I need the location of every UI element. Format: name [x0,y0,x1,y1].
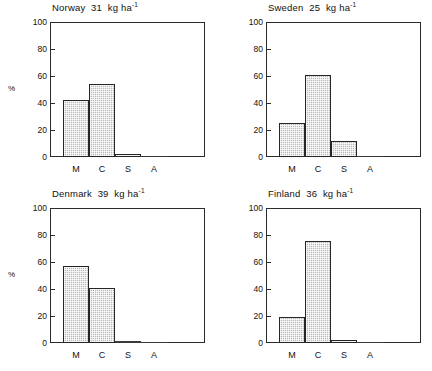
x-tick-label-denmark-s: S [118,350,138,360]
y-tick-label-finland-100: 100 [239,203,263,213]
x-tick-label-sweden-s: S [334,164,354,174]
panel-country-finland: Finland [268,188,301,199]
y-tick-label-sweden-100: 100 [239,17,263,27]
panel-title-denmark: Denmark 39 kg ha-1 [52,188,145,199]
y-axis-norway: 020406080100 [20,22,47,157]
panel-units-norway: kg ha [108,2,132,13]
y-tick-mark-finland-40 [267,289,271,290]
panel-norway: Norway 31 kg ha-1%020406080100MCSA [0,0,216,185]
plot-area-sweden [266,22,421,157]
panel-rate-norway: 31 [91,2,102,13]
panel-units-exponent-finland: -1 [347,187,353,194]
y-tick-label-sweden-20: 20 [239,125,263,135]
y-tick-label-norway-80: 80 [23,44,47,54]
panel-country-denmark: Denmark [52,188,92,199]
x-tick-label-sweden-c: C [308,164,328,174]
figure-panel-grid: Norway 31 kg ha-1%020406080100MCSASweden… [0,0,432,371]
panel-sweden: Sweden 25 kg ha-1020406080100MCSA [216,0,432,185]
x-tick-label-finland-m: M [282,350,302,360]
panel-title-finland: Finland 36 kg ha-1 [268,188,353,199]
y-tick-label-denmark-40: 40 [23,284,47,294]
y-tick-label-norway-100: 100 [23,17,47,27]
x-tick-label-norway-c: C [92,164,112,174]
y-tick-label-sweden-0: 0 [239,152,263,162]
y-axis-denmark: 020406080100 [20,208,47,343]
y-tick-label-denmark-60: 60 [23,257,47,267]
panel-finland: Finland 36 kg ha-1020406080100MCSA [216,186,432,371]
y-tick-label-sweden-80: 80 [239,44,263,54]
y-axis-label-denmark: % [8,270,15,279]
plot-area-denmark [50,208,205,343]
y-tick-label-sweden-40: 40 [239,98,263,108]
panel-rate-sweden: 25 [309,2,320,13]
panel-rate-denmark: 39 [98,188,109,199]
y-tick-mark-sweden-20 [267,130,271,131]
y-tick-label-finland-80: 80 [239,230,263,240]
x-tick-label-norway-m: M [66,164,86,174]
y-tick-mark-denmark-40 [51,289,55,290]
y-tick-mark-finland-80 [267,235,271,236]
y-axis-label-norway: % [8,84,15,93]
x-tick-label-denmark-m: M [66,350,86,360]
panel-units-exponent-denmark: -1 [139,187,145,194]
y-tick-mark-finland-60 [267,262,271,263]
y-tick-label-denmark-80: 80 [23,230,47,240]
panel-country-sweden: Sweden [268,2,304,13]
x-tick-label-finland-c: C [308,350,328,360]
y-tick-label-norway-60: 60 [23,71,47,81]
y-tick-label-denmark-0: 0 [23,338,47,348]
y-tick-label-sweden-60: 60 [239,71,263,81]
y-tick-mark-denmark-80 [51,235,55,236]
y-tick-label-finland-20: 20 [239,311,263,321]
panel-title-norway: Norway 31 kg ha-1 [52,2,138,13]
y-tick-label-finland-0: 0 [239,338,263,348]
plot-area-norway [50,22,205,157]
y-axis-sweden: 020406080100 [236,22,263,157]
panel-units-exponent-sweden: -1 [350,1,356,8]
y-tick-label-denmark-20: 20 [23,311,47,321]
y-tick-mark-finland-20 [267,316,271,317]
y-tick-mark-norway-60 [51,76,55,77]
panel-units-denmark: kg ha [114,188,138,199]
y-tick-label-finland-40: 40 [239,284,263,294]
y-tick-mark-denmark-60 [51,262,55,263]
panel-units-exponent-norway: -1 [132,1,138,8]
x-tick-label-norway-s: S [118,164,138,174]
y-tick-label-denmark-100: 100 [23,203,47,213]
y-tick-label-norway-40: 40 [23,98,47,108]
x-tick-label-denmark-c: C [92,350,112,360]
y-axis-finland: 020406080100 [236,208,263,343]
x-tick-label-denmark-a: A [144,350,164,360]
y-tick-label-finland-60: 60 [239,257,263,267]
y-tick-mark-sweden-40 [267,103,271,104]
x-tick-label-norway-a: A [144,164,164,174]
panel-denmark: Denmark 39 kg ha-1%020406080100MCSA [0,186,216,371]
panel-units-finland: kg ha [323,188,347,199]
panel-units-sweden: kg ha [326,2,350,13]
y-tick-mark-norway-40 [51,103,55,104]
panel-title-sweden: Sweden 25 kg ha-1 [268,2,356,13]
panel-rate-finland: 36 [306,188,317,199]
y-tick-mark-sweden-60 [267,76,271,77]
x-tick-label-sweden-a: A [360,164,380,174]
y-tick-label-norway-20: 20 [23,125,47,135]
y-tick-mark-norway-20 [51,130,55,131]
y-tick-mark-sweden-80 [267,49,271,50]
panel-country-norway: Norway [52,2,85,13]
y-tick-mark-norway-80 [51,49,55,50]
x-tick-label-finland-s: S [334,350,354,360]
y-tick-label-norway-0: 0 [23,152,47,162]
x-tick-label-finland-a: A [360,350,380,360]
x-tick-label-sweden-m: M [282,164,302,174]
plot-area-finland [266,208,421,343]
y-tick-mark-denmark-20 [51,316,55,317]
